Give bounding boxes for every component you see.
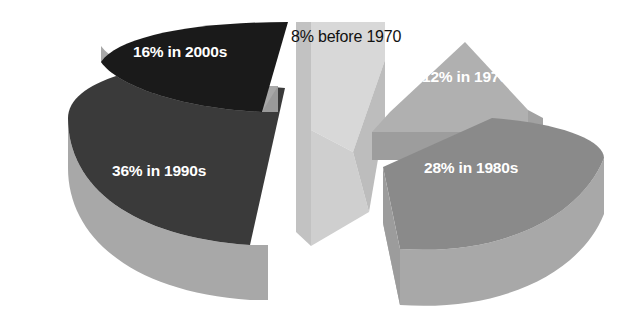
pie-slice-1990s-cut-wall (250, 245, 268, 300)
pie-slice-1970s-top (372, 42, 528, 132)
pie-slice-before-1970-left-wall (296, 22, 311, 246)
pie-slice-before-1970 (296, 22, 385, 246)
pie-chart: 16% in 2000s 8% before 1970 12% in 1970s… (0, 0, 636, 327)
pie-chart-graphic (0, 0, 636, 327)
